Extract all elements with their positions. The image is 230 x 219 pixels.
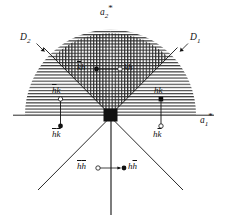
boundary-label-d2: D2	[20, 33, 30, 45]
boundary-label-d1: D1	[190, 33, 200, 45]
reflection-label-kh: kh	[124, 63, 133, 72]
reflection-label-hk: hk	[154, 86, 163, 95]
lower-right-diagonal	[111, 117, 184, 190]
lower-left-diagonal	[38, 117, 111, 190]
marker-hkbar-open	[159, 124, 163, 128]
marker-kh-open	[118, 67, 122, 71]
marker-hk-filled	[159, 97, 164, 102]
reflection-label-khbar: kh	[77, 63, 86, 72]
reflection-label-hkbar: hk	[153, 130, 162, 139]
marker-hbarkbar-filled	[58, 124, 63, 129]
reflection-label-hbarhbar: hh	[77, 162, 86, 171]
lower-pair-arrowhead	[117, 166, 121, 169]
reflection-label-hbarkbar: hk	[52, 130, 61, 139]
axis-label-a2-star: a2*	[100, 4, 113, 20]
marker-hbark-open	[58, 97, 62, 101]
axis-label-a1-star: a1*	[200, 112, 213, 128]
reflection-label-hbark: hk	[52, 86, 61, 95]
marker-hhbar-filled	[122, 166, 127, 171]
reflection-label-hhbar: hh	[128, 162, 137, 171]
diagram-canvas: a2* a1* D2 D1 kh kh hk hk hk hk hh hh	[0, 0, 230, 219]
marker-khbar-filled	[94, 67, 99, 72]
marker-hbarhbar-open	[96, 166, 100, 170]
origin-marker	[104, 109, 118, 122]
